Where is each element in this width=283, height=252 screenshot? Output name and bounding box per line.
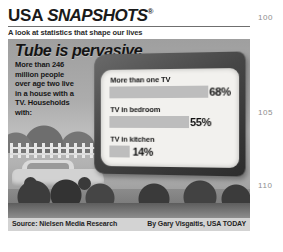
bar-track — [109, 116, 189, 128]
margin-line-number: 105 — [258, 108, 273, 117]
footer-credit: By Gary Visgaitis, USA TODAY — [147, 220, 246, 227]
bar-fill — [109, 86, 208, 99]
footer-source: Source: Nielsen Media Research — [12, 220, 117, 227]
bar-value: 68% — [209, 85, 230, 97]
bar-label: TV in bedroom — [110, 105, 160, 114]
graphic-deck-text: More than 246 million people over age tw… — [15, 60, 77, 118]
margin-line-number: 100 — [258, 13, 273, 22]
bar-label: More than one TV — [110, 75, 170, 85]
bar-value: 55% — [190, 116, 211, 128]
bar-row: More than one TV 68% — [109, 74, 232, 76]
masthead-divider — [8, 26, 250, 27]
foreground-ground — [8, 203, 250, 217]
masthead-title-usa: USA — [8, 6, 47, 25]
bar-track — [109, 145, 129, 157]
illustration-panel: Tube is pervasive More than 246 million … — [8, 39, 250, 217]
registered-trademark-icon: ® — [148, 7, 154, 16]
usa-snapshots-graphic: USA SNAPSHOTS® A look at statistics that… — [8, 7, 250, 238]
masthead-title: USA SNAPSHOTS® — [8, 6, 154, 26]
masthead-title-snapshots: SNAPSHOTS — [47, 6, 147, 25]
graphic-footer: Source: Nielsen Media Research By Gary V… — [8, 217, 250, 231]
bar-fill — [109, 145, 129, 157]
bar-value: 14% — [133, 146, 153, 158]
bar-chart: More than one TV 68% TV in bedroom 55% — [109, 74, 232, 164]
masthead-subtitle: A look at statistics that shape our live… — [8, 28, 142, 37]
bar-track — [109, 86, 208, 99]
tv-screen: More than one TV 68% TV in bedroom 55% — [101, 68, 239, 168]
margin-line-number: 110 — [258, 181, 273, 190]
bar-fill — [109, 116, 189, 128]
masthead: USA SNAPSHOTS® A look at statistics that… — [8, 7, 250, 25]
bar-row: TV in kitchen 14% — [109, 135, 232, 136]
bar-label: TV in kitchen — [110, 135, 154, 144]
television-icon: More than one TV 68% TV in bedroom 55% — [92, 53, 250, 183]
